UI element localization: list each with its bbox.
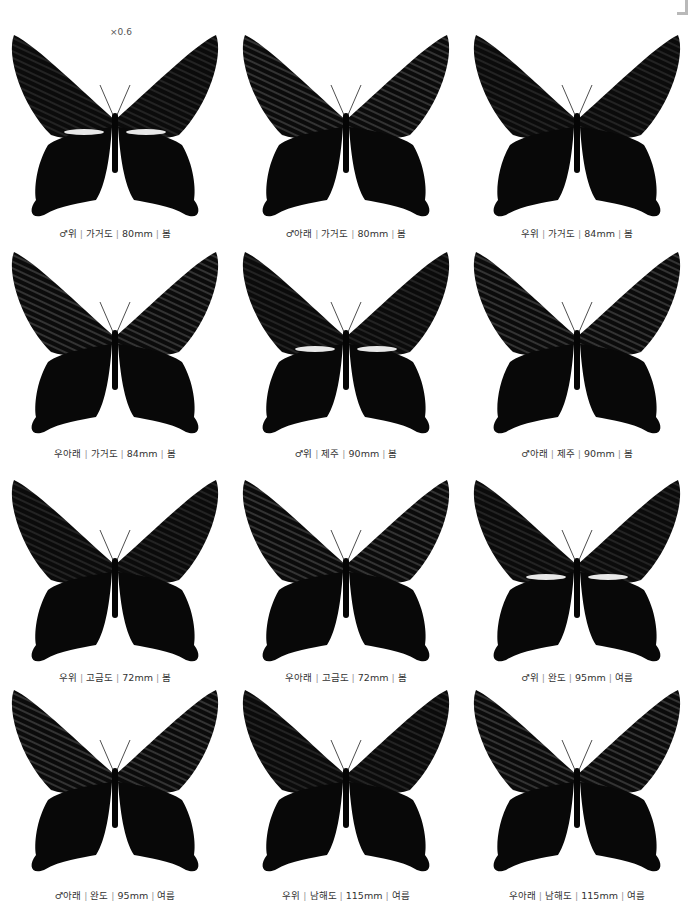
caption-season: 여름 bbox=[392, 890, 410, 901]
specimen-caption: 우위|가거도|84mm|봄 bbox=[462, 226, 692, 240]
specimen-card: ♂위|가거도|80mm|봄 bbox=[0, 25, 230, 250]
caption-separator: | bbox=[157, 448, 166, 459]
caption-season: 봄 bbox=[624, 448, 633, 459]
caption-locality: 가거도 bbox=[321, 228, 348, 239]
specimen-card: 우아래|가거도|84mm|봄 bbox=[0, 242, 230, 467]
caption-separator: | bbox=[312, 228, 321, 239]
caption-separator: | bbox=[300, 890, 309, 901]
caption-sex-side: 우위 bbox=[282, 890, 300, 901]
caption-separator: | bbox=[312, 448, 321, 459]
caption-size: 84mm bbox=[584, 228, 615, 239]
caption-separator: | bbox=[337, 890, 346, 901]
butterfly-icon bbox=[6, 25, 224, 225]
caption-separator: | bbox=[615, 448, 624, 459]
specimen-card: ♂아래|제주|90mm|봄 bbox=[462, 242, 692, 467]
caption-season: 봄 bbox=[397, 228, 406, 239]
caption-separator: | bbox=[148, 890, 157, 901]
specimen-card: 우위|남해도|115mm|여름 bbox=[231, 680, 461, 905]
caption-locality: 가거도 bbox=[548, 228, 575, 239]
caption-separator: | bbox=[81, 448, 90, 459]
specimen-card: ♂아래|가거도|80mm|봄 bbox=[231, 25, 461, 250]
specimen-caption: ♂아래|가거도|80mm|봄 bbox=[231, 226, 461, 240]
caption-locality: 가거도 bbox=[91, 448, 118, 459]
specimen-caption: ♂위|가거도|80mm|봄 bbox=[0, 226, 230, 240]
caption-size: 80mm bbox=[122, 228, 153, 239]
caption-separator: | bbox=[388, 228, 397, 239]
caption-season: 봄 bbox=[162, 228, 171, 239]
specimen-grid: ♂위|가거도|80mm|봄 ♂아래|가거도|80mm bbox=[0, 0, 692, 911]
caption-locality: 제주 bbox=[321, 448, 339, 459]
specimen-caption: ♂아래|제주|90mm|봄 bbox=[462, 446, 692, 460]
caption-separator: | bbox=[539, 228, 548, 239]
caption-separator: | bbox=[348, 228, 357, 239]
specimen-card: ♂아래|완도|95mm|여름 bbox=[0, 680, 230, 905]
caption-season: 봄 bbox=[388, 448, 397, 459]
caption-locality: 남해도 bbox=[545, 890, 572, 901]
butterfly-icon bbox=[237, 470, 455, 670]
specimen-card: 우위|가거도|84mm|봄 bbox=[462, 25, 692, 250]
specimen-card: 우아래|남해도|115mm|여름 bbox=[462, 680, 692, 905]
caption-size: 84mm bbox=[127, 448, 158, 459]
caption-separator: | bbox=[153, 228, 162, 239]
butterfly-icon bbox=[468, 25, 686, 225]
butterfly-icon bbox=[468, 470, 686, 670]
butterfly-icon bbox=[237, 680, 455, 880]
caption-size: 115mm bbox=[346, 890, 383, 901]
specimen-card: 우위|고금도|72mm|봄 bbox=[0, 470, 230, 695]
specimen-caption: ♂아래|완도|95mm|여름 bbox=[0, 888, 230, 902]
caption-separator: | bbox=[536, 890, 545, 901]
butterfly-icon bbox=[237, 242, 455, 442]
caption-separator: | bbox=[118, 448, 127, 459]
caption-sex-side: ♂위 bbox=[295, 448, 313, 459]
caption-separator: | bbox=[548, 448, 557, 459]
caption-season: 봄 bbox=[624, 228, 633, 239]
caption-locality: 가거도 bbox=[86, 228, 113, 239]
specimen-card: ♂위|제주|90mm|봄 bbox=[231, 242, 461, 467]
caption-separator: | bbox=[382, 890, 391, 901]
caption-sex-side: ♂아래 bbox=[521, 448, 548, 459]
caption-separator: | bbox=[572, 890, 581, 901]
caption-separator: | bbox=[575, 228, 584, 239]
butterfly-icon bbox=[6, 680, 224, 880]
caption-locality: 제주 bbox=[557, 448, 575, 459]
caption-size: 115mm bbox=[581, 890, 618, 901]
caption-sex-side: 우위 bbox=[521, 228, 539, 239]
specimen-caption: ♂위|제주|90mm|봄 bbox=[231, 446, 461, 460]
specimen-caption: 우아래|가거도|84mm|봄 bbox=[0, 446, 230, 460]
caption-sex-side: 우아래 bbox=[54, 448, 81, 459]
specimen-caption: 우위|남해도|115mm|여름 bbox=[231, 888, 461, 902]
specimen-caption: 우아래|남해도|115mm|여름 bbox=[462, 888, 692, 902]
caption-season: 여름 bbox=[157, 890, 175, 901]
caption-sex-side: ♂아래 bbox=[286, 228, 313, 239]
caption-season: 여름 bbox=[627, 890, 645, 901]
caption-locality: 완도 bbox=[90, 890, 108, 901]
specimen-card: 우아래|고금도|72mm|봄 bbox=[231, 470, 461, 695]
butterfly-icon bbox=[237, 25, 455, 225]
caption-locality: 남해도 bbox=[310, 890, 337, 901]
caption-sex-side: 우아래 bbox=[509, 890, 536, 901]
caption-size: 80mm bbox=[358, 228, 389, 239]
caption-separator: | bbox=[618, 890, 627, 901]
butterfly-icon bbox=[468, 242, 686, 442]
specimen-card: ♂위|완도|95mm|여름 bbox=[462, 470, 692, 695]
caption-separator: | bbox=[379, 448, 388, 459]
caption-size: 90mm bbox=[349, 448, 380, 459]
caption-size: 95mm bbox=[118, 890, 149, 901]
caption-season: 봄 bbox=[167, 448, 176, 459]
caption-separator: | bbox=[81, 890, 90, 901]
butterfly-icon bbox=[6, 242, 224, 442]
caption-separator: | bbox=[77, 228, 86, 239]
caption-size: 90mm bbox=[584, 448, 615, 459]
caption-separator: | bbox=[113, 228, 122, 239]
caption-separator: | bbox=[339, 448, 348, 459]
caption-separator: | bbox=[575, 448, 584, 459]
caption-separator: | bbox=[108, 890, 117, 901]
caption-sex-side: ♂위 bbox=[59, 228, 77, 239]
butterfly-icon bbox=[6, 470, 224, 670]
caption-separator: | bbox=[615, 228, 624, 239]
butterfly-icon bbox=[468, 680, 686, 880]
caption-sex-side: ♂아래 bbox=[55, 890, 82, 901]
